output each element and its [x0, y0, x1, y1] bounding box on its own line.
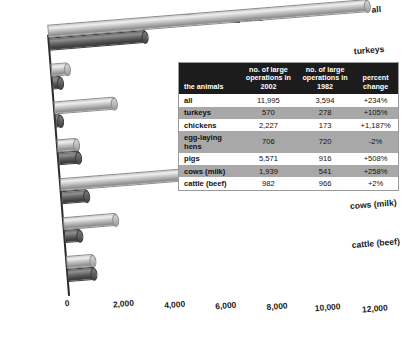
- cell-ops-2002: 11,995: [240, 94, 297, 106]
- table-row: chickens 2,227 173 +1,187%: [179, 119, 399, 131]
- cell-ops-1982: 916: [297, 153, 353, 165]
- table-row: all 11,995 3,594 +234%: [179, 94, 399, 106]
- cell-animal-name: turkeys: [179, 107, 240, 119]
- cell-ops-2002: 5,571: [240, 153, 297, 165]
- table-row: egg-laying hens 706 720 -2%: [179, 131, 399, 152]
- cell-ops-1982: 541: [297, 165, 353, 177]
- cell-animal-name: egg-laying hens: [179, 131, 240, 152]
- cell-ops-2002: 570: [240, 107, 297, 119]
- cell-ops-2002: 2,227: [240, 119, 297, 131]
- bar-group-chickens: [53, 97, 117, 128]
- table-row: pigs 5,571 916 +508%: [179, 153, 399, 165]
- axis-tick-12000: 12,000: [362, 302, 388, 314]
- bar-all-2002: [47, 0, 369, 38]
- chart-container: 2002 1982 all turkeys chickens egg-layin…: [0, 0, 403, 355]
- bar-group-cows-milk: [63, 213, 119, 243]
- table-header-ops-1982: no. of large operations in 1982: [297, 63, 353, 95]
- table-header-change: percent change: [353, 63, 398, 95]
- bar-group-egg-laying-hens: [56, 138, 80, 166]
- bar-cows-milk-2002: [63, 213, 118, 230]
- bar-chickens-2002: [53, 97, 116, 115]
- cell-ops-2002: 982: [240, 177, 297, 190]
- cell-ops-1982: 3,594: [297, 94, 353, 106]
- cell-percent-change: +258%: [353, 165, 398, 177]
- bar-cows-milk-1982: [64, 229, 82, 243]
- table-header-row: the animals no. of large operations in 2…: [179, 63, 399, 95]
- table-header-ops-2002: no. of large operations in 2002: [240, 63, 297, 95]
- cell-ops-2002: 1,939: [240, 165, 297, 177]
- table-header-animals: the animals: [179, 63, 240, 95]
- bar-cattle-beef-1982: [67, 267, 96, 282]
- category-label-cows-milk: cows (milk): [332, 197, 397, 212]
- bar-pigs-1982: [61, 189, 89, 204]
- cell-percent-change: +2%: [353, 177, 398, 190]
- cell-ops-1982: 966: [297, 177, 353, 190]
- axis-tick-4000: 4,000: [164, 299, 186, 311]
- bar-egg-laying-hens-1982: [58, 151, 81, 166]
- cell-ops-1982: 720: [297, 131, 353, 152]
- cell-percent-change: +105%: [353, 107, 398, 119]
- axis-tick-8000: 8,000: [266, 300, 288, 312]
- table-row: cows (milk) 1,939 541 +258%: [179, 165, 399, 177]
- cell-animal-name: cows (milk): [179, 165, 240, 177]
- table-row: turkeys 570 278 +105%: [179, 107, 399, 119]
- table-row: cattle (beef) 982 966 +2%: [179, 177, 399, 190]
- cell-ops-2002: 706: [240, 131, 297, 152]
- data-table: the animals no. of large operations in 2…: [178, 62, 399, 191]
- cell-percent-change: +234%: [353, 94, 398, 106]
- cell-animal-name: chickens: [179, 119, 240, 131]
- bar-group-cattle-beef: [66, 254, 96, 282]
- cell-animal-name: all: [179, 94, 240, 106]
- axis-tick-10000: 10,000: [314, 301, 340, 313]
- bar-turkeys-2002: [50, 62, 69, 76]
- cell-animal-name: pigs: [179, 153, 240, 165]
- bar-group-turkeys: [50, 62, 70, 89]
- category-label-turkeys: turkeys: [320, 44, 385, 59]
- bar-turkeys-1982: [51, 76, 62, 90]
- axis-tick-0: 0: [64, 298, 69, 308]
- cell-percent-change: -2%: [353, 131, 398, 152]
- cell-ops-1982: 173: [297, 119, 353, 131]
- axis-tick-2000: 2,000: [112, 298, 134, 310]
- cell-ops-1982: 278: [297, 107, 353, 119]
- category-label-cattle-beef: cattle (beef): [336, 236, 401, 251]
- axis-tick-6000: 6,000: [215, 300, 237, 312]
- bar-chickens-1982: [54, 114, 62, 128]
- cell-percent-change: +1,187%: [353, 119, 398, 131]
- cell-percent-change: +508%: [353, 153, 398, 165]
- cell-animal-name: cattle (beef): [179, 177, 240, 190]
- bar-group-all: [47, 0, 370, 51]
